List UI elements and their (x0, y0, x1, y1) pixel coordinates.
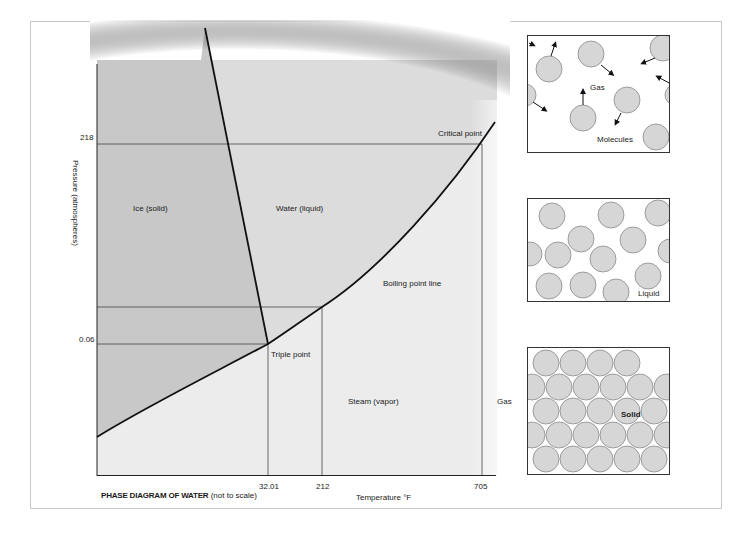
title-note: (not to scale) (211, 491, 257, 500)
y-axis-label: Pressure (atmospheres) (71, 160, 80, 246)
gas-molecules-panel: Gas Molecules (527, 35, 670, 153)
x-tick-32: 32.01 (259, 482, 279, 491)
title-bold: PHASE DIAGRAM OF WATER (101, 491, 208, 500)
solid-molecules-panel: Solid (527, 347, 670, 475)
liquid-panel-label: Liquid (638, 289, 659, 298)
molecules-label: Molecules (597, 135, 633, 144)
gas-label: Gas (497, 397, 512, 406)
ice-label: Ice (solid) (133, 204, 168, 213)
liquid-molecules-panel: Liquid (527, 198, 670, 302)
figure-title: PHASE DIAGRAM OF WATER (not to scale) (101, 491, 257, 500)
y-tick-218: 218 (80, 133, 93, 142)
steam-label: Steam (vapor) (348, 397, 399, 406)
boiling-line-label: Boiling point line (383, 279, 441, 288)
x-axis-label: Temperature °F (356, 493, 411, 502)
water-label: Water (liquid) (276, 204, 323, 213)
x-tick-212: 212 (316, 482, 329, 491)
y-tick-0.06: 0.06 (79, 335, 95, 344)
critical-point-label: Critical point (438, 129, 482, 138)
liquid-molecules-illustration (528, 199, 670, 302)
gas-panel-label: Gas (590, 83, 605, 92)
solid-panel-label: Solid (621, 410, 641, 419)
top-fade (90, 20, 510, 160)
right-fade (470, 100, 510, 480)
solid-molecules-illustration (528, 348, 670, 475)
x-tick-705: 705 (474, 482, 487, 491)
triple-point-label: Triple point (271, 350, 310, 359)
